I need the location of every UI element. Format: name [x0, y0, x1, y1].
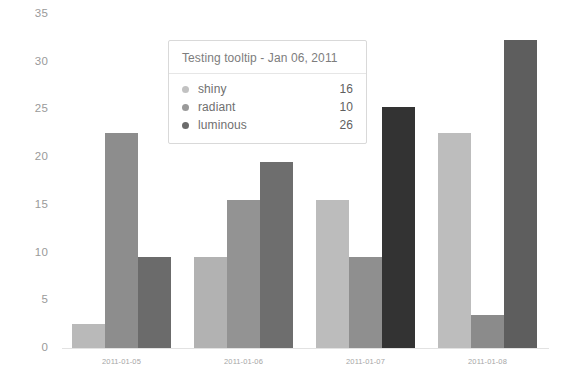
bar[interactable] — [260, 162, 293, 348]
y-axis-tick-label: 0 — [41, 342, 48, 354]
chart-tooltip: Testing tooltip - Jan 06, 2011 shiny16ra… — [168, 40, 367, 144]
bar[interactable] — [138, 257, 171, 348]
bar[interactable] — [504, 40, 537, 348]
tooltip-title: Testing tooltip - Jan 06, 2011 — [169, 41, 366, 74]
bar[interactable] — [227, 200, 260, 348]
x-axis-tick-label: 2011-01-07 — [346, 358, 385, 366]
y-axis-tick-label: 15 — [35, 199, 48, 211]
y-axis: 05101520253035 — [0, 0, 62, 382]
tooltip-row: radiant10 — [182, 98, 353, 116]
tooltip-rows: shiny16radiant10luminous26 — [169, 74, 366, 143]
x-axis-tick-label: 2011-01-06 — [224, 358, 263, 366]
bar[interactable] — [316, 200, 349, 348]
bar[interactable] — [471, 315, 504, 348]
tooltip-series-value: 16 — [339, 82, 353, 96]
series-dot-icon — [182, 104, 189, 111]
y-axis-tick-label: 30 — [35, 56, 48, 68]
y-axis-tick-label: 20 — [35, 151, 48, 163]
bar[interactable] — [349, 257, 382, 348]
bar[interactable] — [382, 107, 415, 348]
y-axis-tick-label: 25 — [35, 104, 48, 116]
tooltip-series-label: radiant — [198, 100, 339, 114]
bar[interactable] — [72, 324, 105, 348]
bar-chart: 05101520253035 2011-01-052011-01-062011-… — [0, 0, 563, 382]
y-axis-tick-label: 5 — [41, 295, 48, 307]
series-dot-icon — [182, 86, 189, 93]
tooltip-series-label: shiny — [198, 82, 339, 96]
series-dot-icon — [182, 122, 189, 129]
bar[interactable] — [105, 133, 138, 348]
tooltip-series-label: luminous — [198, 118, 339, 132]
tooltip-row: luminous26 — [182, 116, 353, 134]
tooltip-row: shiny16 — [182, 80, 353, 98]
y-axis-tick-label: 35 — [35, 8, 48, 20]
bar[interactable] — [438, 133, 471, 348]
bar[interactable] — [194, 257, 227, 348]
y-axis-tick-label: 10 — [35, 247, 48, 259]
tooltip-series-value: 10 — [339, 100, 353, 114]
x-axis-tick-label: 2011-01-08 — [468, 358, 507, 366]
x-axis-tick-label: 2011-01-05 — [102, 358, 141, 366]
x-axis: 2011-01-052011-01-062011-01-072011-01-08 — [62, 348, 549, 382]
tooltip-series-value: 26 — [339, 118, 353, 132]
